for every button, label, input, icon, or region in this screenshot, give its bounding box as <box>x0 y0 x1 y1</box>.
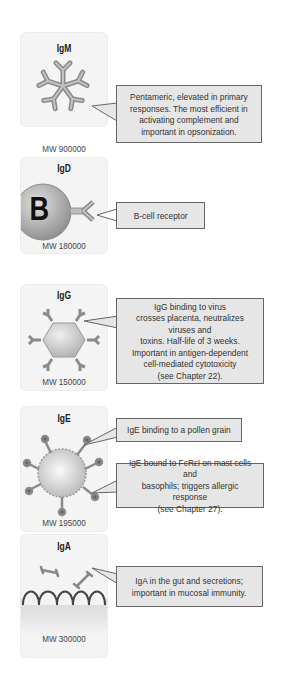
iga-panel: IgA MW 300000 <box>21 535 107 657</box>
iga-title: IgA <box>27 541 100 552</box>
igm-mw: MW 900000 <box>27 143 100 154</box>
igg-title: IgG <box>27 290 100 301</box>
igd-mw: MW 180000 <box>27 240 100 251</box>
igm-title: IgM <box>27 43 100 54</box>
igg-panel: IgG MW 150000 <box>21 285 107 390</box>
ige-mast-cell-callout: IgE bound to FcRεI on mast cells and bas… <box>116 463 264 508</box>
b-cell-label: B <box>29 189 49 228</box>
igd-title: IgD <box>27 163 100 174</box>
ige-mw: MW 195000 <box>27 517 100 528</box>
ige-title: IgE <box>27 413 100 424</box>
ige-pollen-callout: IgE binding to a pollen grain <box>116 418 242 442</box>
igg-callout: IgG binding to virus crosses placenta, n… <box>116 298 264 384</box>
iga-mw: MW 300000 <box>27 633 100 644</box>
igd-callout: B-cell receptor <box>116 202 205 229</box>
igm-callout: Pentameric, elevated in primary response… <box>116 85 262 143</box>
virus-with-igg-icon <box>21 303 107 375</box>
igg-mw: MW 150000 <box>27 376 100 387</box>
iga-callout: IgA in the gut and secretions; important… <box>116 566 263 607</box>
